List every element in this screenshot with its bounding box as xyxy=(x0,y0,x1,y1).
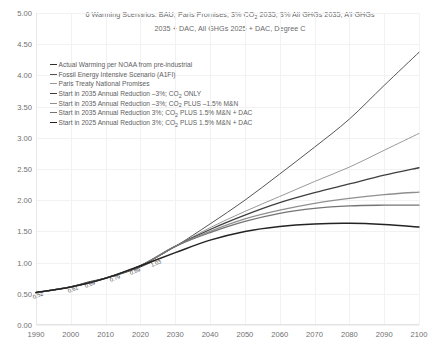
y-tick-label: 0.00 xyxy=(0,321,32,330)
legend-line-swatch xyxy=(50,93,57,94)
series-line xyxy=(36,133,419,292)
y-tick-label: 1.50 xyxy=(0,227,32,236)
legend-item: Actual Warming per NOAA from pre-industr… xyxy=(50,60,310,70)
legend-line-swatch xyxy=(50,83,57,84)
legend-item: Start in 2025 Annual Reduction 3%; CO2 P… xyxy=(50,118,310,128)
legend-item-label: Start in 2035 Annual Reduction 3%; CO2 P… xyxy=(59,109,253,116)
y-tick-label: 4.00 xyxy=(0,71,32,80)
series-line xyxy=(36,168,419,293)
y-tick-label: 5.00 xyxy=(0,9,32,18)
legend-line-swatch xyxy=(50,122,57,123)
y-tick-label: 1.00 xyxy=(0,258,32,267)
y-tick-label: 2.50 xyxy=(0,165,32,174)
legend-item-label: Fossil Energy Intensive Scenario (A1FI) xyxy=(59,71,176,78)
series-line xyxy=(36,261,154,293)
co2-subscript: 2 xyxy=(175,112,178,118)
legend-item: Fossil Energy Intensive Scenario (A1FI) xyxy=(50,70,310,80)
y-tick-label: 3.50 xyxy=(0,102,32,111)
legend-item: Paris Treaty National Promises xyxy=(50,79,310,89)
x-tick-label: 2100 xyxy=(399,330,432,339)
gridline-vertical xyxy=(419,13,420,325)
co2-subscript: 2 xyxy=(179,102,182,108)
co2-subscript: 2 xyxy=(179,93,182,99)
series-line xyxy=(36,192,419,292)
legend-item: Start in 2035 Annual Reduction 3%; CO2 P… xyxy=(50,108,310,118)
y-tick-label: 3.00 xyxy=(0,133,32,142)
legend-line-swatch xyxy=(50,103,57,104)
y-tick-label: 2.00 xyxy=(0,196,32,205)
legend-line-swatch xyxy=(50,74,57,75)
co2-subscript: 2 xyxy=(175,122,178,128)
legend-line-swatch xyxy=(50,112,57,113)
y-tick-label: 0.50 xyxy=(0,289,32,298)
legend-item-label: Start in 2035 Annual Reduction –3%; CO2 … xyxy=(59,90,202,97)
legend-item: Start in 2035 Annual Reduction –3%; CO2 … xyxy=(50,89,310,99)
legend-item-label: Actual Warming per NOAA from pre-industr… xyxy=(59,61,193,68)
y-tick-label: 4.50 xyxy=(0,40,32,49)
chart-legend: Actual Warming per NOAA from pre-industr… xyxy=(50,60,310,127)
legend-item-label: Start in 2035 Annual Reduction –3%; CO2 … xyxy=(59,100,239,107)
gridline-horizontal xyxy=(36,325,419,326)
legend-item-label: Start in 2025 Annual Reduction 3%; CO2 P… xyxy=(59,119,253,126)
legend-item-label: Paris Treaty National Promises xyxy=(59,80,150,87)
legend-line-swatch xyxy=(50,64,57,65)
legend-item: Start in 2035 Annual Reduction –3%; CO2 … xyxy=(50,98,310,108)
